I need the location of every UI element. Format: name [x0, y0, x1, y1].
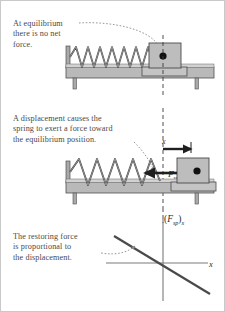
figure-container: At equilibrium there is no net force. A …	[0, 0, 225, 312]
glider-block-2	[177, 158, 209, 183]
panel-graph	[101, 208, 210, 301]
figure-graphics	[1, 1, 225, 312]
air-track-body	[66, 67, 214, 78]
glider-center-of-mass-dot-2	[193, 167, 200, 174]
air-track-leg-right	[195, 78, 198, 89]
leader-line-restoring	[101, 246, 135, 254]
panel-displaced-apparatus	[66, 108, 216, 208]
graph-hooke-line	[114, 236, 210, 294]
air-track-leg-left-2	[73, 193, 76, 204]
air-track-leg-right-2	[195, 193, 198, 204]
leader-line-displacement	[134, 142, 154, 171]
leader-line-equilibrium	[79, 23, 159, 47]
air-track-rail	[66, 64, 214, 68]
air-track-leg-left	[73, 78, 76, 89]
panel-equilibrium-apparatus	[66, 23, 214, 97]
